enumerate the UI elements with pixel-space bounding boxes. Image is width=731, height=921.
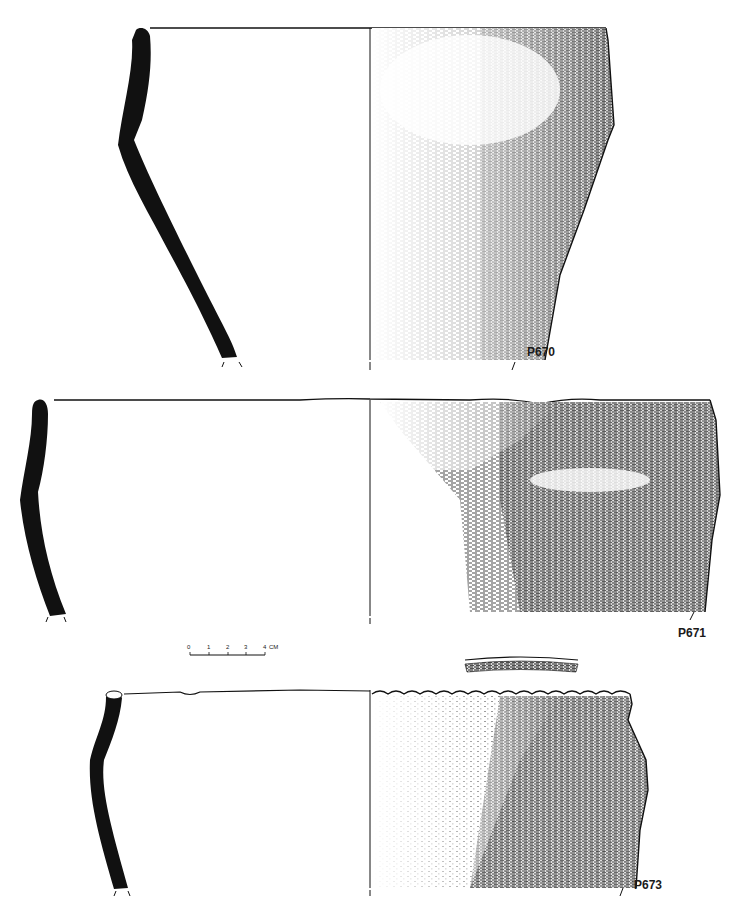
p673-cordon-rim <box>372 691 630 694</box>
pottery-figure: 0 1 2 3 4 CM P670 P671 P673 <box>0 0 731 921</box>
p673-tick <box>620 888 623 896</box>
vessel-p671 <box>20 399 720 622</box>
p670-tick <box>512 362 515 370</box>
p673-profile-tick <box>128 891 130 896</box>
vessel-label-p670: P670 <box>527 345 555 359</box>
scale-tick-3: 3 <box>244 644 247 650</box>
p673-profile-section <box>90 693 128 889</box>
p670-profile-tick <box>222 362 224 367</box>
vessel-label-p673: P673 <box>634 878 662 892</box>
rim-decoration-detail <box>465 657 578 672</box>
p670-profile-tick <box>239 362 242 367</box>
vessel-p673 <box>90 690 648 896</box>
scale-tick-4: 4 <box>263 644 266 650</box>
vessel-p670 <box>118 28 622 370</box>
p671-profile-tick <box>46 617 48 622</box>
p670-profile-section <box>118 28 237 358</box>
scale-tick-0: 0 <box>187 644 190 650</box>
p673-rim-line <box>124 690 370 695</box>
vessel-label-p671: P671 <box>678 626 706 640</box>
scale-tick-1: 1 <box>207 644 210 650</box>
p671-profile-tick <box>64 617 66 622</box>
p671-tick <box>690 612 694 620</box>
scale-unit: CM <box>269 644 278 650</box>
p671-profile-section <box>20 400 66 616</box>
p673-profile-tick <box>114 891 116 896</box>
scale-bar <box>190 652 265 655</box>
scale-tick-2: 2 <box>226 644 229 650</box>
pottery-drawings <box>0 0 731 921</box>
